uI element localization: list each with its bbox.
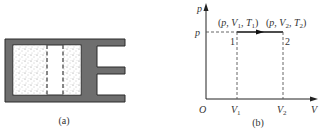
cylinder-figure: (a) [5, 39, 125, 127]
gas-region-right [63, 46, 81, 95]
x-axis-label: V [311, 104, 319, 115]
v2-tick-label: V2 [277, 104, 287, 117]
point-2-label: 2 [285, 36, 290, 47]
y-axis-arrow-icon [204, 3, 209, 11]
process-direction-arrow-icon [256, 30, 264, 35]
caption-a: (a) [58, 115, 69, 127]
state-2-label: (p, V2, T2) [266, 17, 306, 30]
gas-region-left [14, 46, 48, 95]
diagram-canvas: (a) p V O p 1 2 (p, V1, T1) (p, V2, T2) [0, 0, 321, 137]
v1-tick-label: V1 [231, 104, 241, 117]
y-axis-label: p [196, 3, 202, 14]
origin-label: O [199, 104, 206, 115]
caption-b: (b) [252, 117, 264, 129]
pressure-level-label: p [194, 27, 200, 38]
x-axis-arrow-icon [310, 97, 318, 102]
point-1-label: 1 [230, 36, 235, 47]
state-1-label: (p, V1, T1) [218, 17, 258, 30]
pv-diagram: p V O p 1 2 (p, V1, T1) (p, V2, T2) V1 V… [194, 3, 319, 129]
